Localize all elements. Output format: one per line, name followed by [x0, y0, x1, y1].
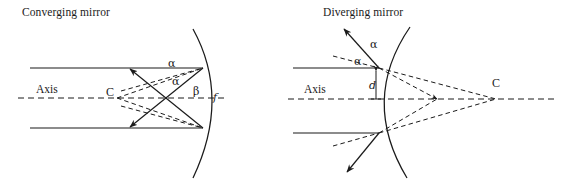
alpha-incident-label-left: α	[168, 57, 175, 70]
alpha-normal-label-left: α	[172, 75, 179, 88]
lower-normal-dashed-right	[333, 133, 379, 146]
lower-focus-dashed-right	[379, 99, 437, 133]
lower-reflected-ray-right	[347, 133, 379, 172]
upper-virtual-ray-right	[379, 68, 496, 99]
beta-angle-label-left: β	[193, 85, 199, 98]
convex-mirror-arc	[384, 27, 410, 178]
left-panel-group	[18, 29, 228, 178]
focal-point-label-left: f	[213, 91, 217, 104]
right-panel-group	[288, 27, 556, 178]
optics-diagram-svg	[0, 0, 565, 187]
center-of-curvature-label-left: C	[106, 85, 114, 100]
concave-mirror-arc	[193, 29, 212, 178]
figure-canvas: Converging mirror Diverging mirror Axis …	[0, 0, 565, 187]
alpha-reflected-label-right: α	[370, 38, 377, 51]
right-panel-title: Diverging mirror	[323, 6, 403, 18]
axis-label-right: Axis	[304, 83, 326, 95]
alpha-normal-label-right: α	[354, 55, 361, 68]
center-of-curvature-label-right: C	[492, 76, 500, 91]
upper-focus-dashed-right	[379, 68, 437, 99]
axis-label-left: Axis	[36, 83, 58, 95]
left-panel-title: Converging mirror	[22, 6, 110, 18]
distance-d-label-text: d	[369, 79, 376, 92]
lower-virtual-ray-right	[379, 99, 496, 133]
